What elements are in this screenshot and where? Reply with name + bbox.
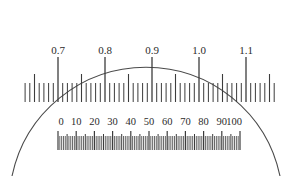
upper-scale [25,57,274,102]
upper-scale-label: 1.0 [192,44,206,56]
lower-scale-label: 40 [126,116,137,127]
lower-scale-label: 80 [198,116,209,127]
lower-scale-label: 20 [89,116,100,127]
upper-scale-label: 0.8 [98,44,112,56]
lower-scale-label: 100 [226,116,242,127]
lower-scale-labels: 0102030405060708090100 [58,116,242,127]
upper-scale-label: 0.9 [145,44,159,56]
lower-scale-label: 70 [180,116,191,127]
lower-scale-label: 30 [107,116,118,127]
reticle-viewport: 0.70.80.91.01.1 0102030405060708090100 [0,0,291,176]
upper-scale-labels: 0.70.80.91.01.1 [51,44,253,56]
lower-scale-label: 10 [71,116,82,127]
lower-scale [58,131,240,150]
lower-scale-label: 0 [58,116,63,127]
lower-scale-label: 60 [162,116,173,127]
upper-scale-label: 0.7 [51,44,65,56]
lower-scale-label: 50 [144,116,155,127]
upper-scale-label: 1.1 [239,44,253,56]
reticle-drawing: 0.70.80.91.01.1 0102030405060708090100 [0,0,291,176]
